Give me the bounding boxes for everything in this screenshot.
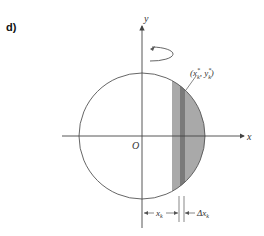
origin-label: O (132, 140, 139, 151)
delta-xk-label: Δxk (196, 208, 209, 219)
point-label: (x*k, y*k) (190, 67, 214, 80)
solid-of-revolution-diagram: y x O (x*k, y*k) xk Δxk (0, 0, 264, 236)
point-leader (186, 76, 196, 90)
rotation-arrow-icon (150, 46, 173, 61)
y-axis-label: y (143, 13, 149, 24)
x-axis-label: x (246, 131, 252, 142)
xk-label: xk (155, 208, 163, 219)
